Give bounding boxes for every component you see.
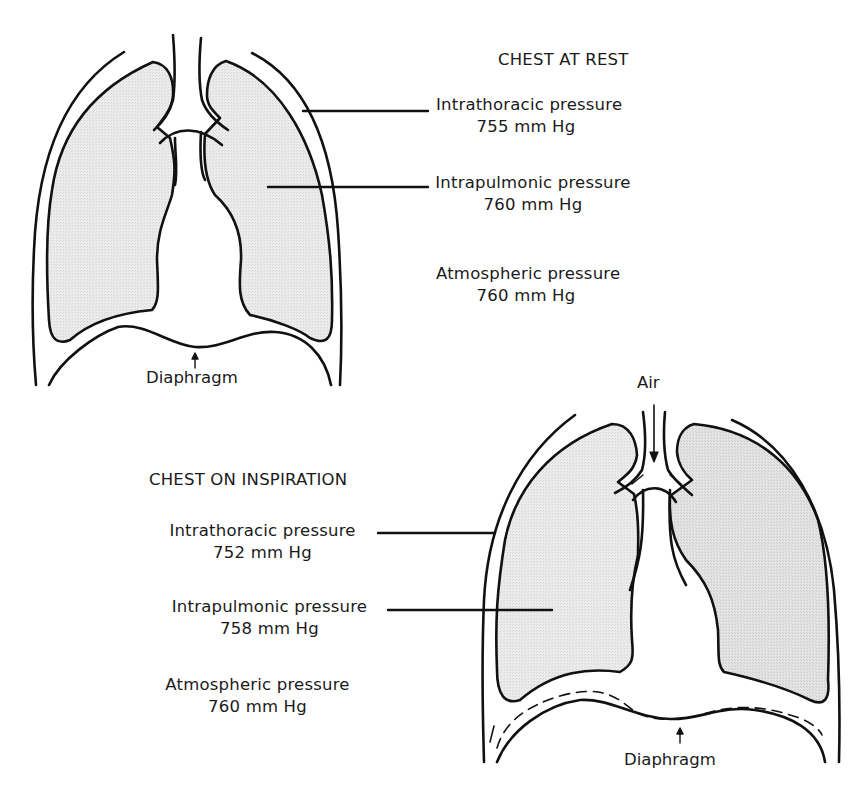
rest-intrapulmonic-name: Intrapulmonic pressure [433,172,633,194]
rest-intrapulmonic-value: 760 mm Hg [433,194,633,216]
insp-lung-left [496,424,638,701]
insp-label-intrapulmonic: Intrapulmonic pressure 758 mm Hg [152,596,387,640]
rest-label-intrathoracic: Intrathoracic pressure 755 mm Hg [436,94,616,138]
rest-intrathoracic-value: 755 mm Hg [436,116,616,138]
rest-label-atmospheric: Atmospheric pressure 760 mm Hg [436,263,616,307]
insp-intrathoracic-value: 752 mm Hg [150,542,375,564]
insp-intrathoracic-name: Intrathoracic pressure [150,520,375,542]
insp-lung-right-fill [670,424,829,702]
insp-atmospheric-value: 760 mm Hg [150,696,365,718]
rest-lung-left [47,62,174,342]
rest-intrathoracic-name: Intrathoracic pressure [436,94,616,116]
rest-atmospheric-value: 760 mm Hg [436,285,616,307]
respiration-diagram [0,0,866,788]
chest-on-inspiration-figure [378,405,839,762]
rest-diaphragm-label: Diaphragm [146,368,238,387]
rest-label-intrapulmonic: Intrapulmonic pressure 760 mm Hg [433,172,633,216]
insp-air-label: Air [637,373,660,392]
insp-label-intrathoracic: Intrathoracic pressure 752 mm Hg [150,520,375,564]
insp-label-atmospheric: Atmospheric pressure 760 mm Hg [150,674,365,718]
rest-title: CHEST AT REST [498,50,629,69]
insp-intrapulmonic-value: 758 mm Hg [152,618,387,640]
rest-atmospheric-name: Atmospheric pressure [436,263,616,285]
rest-mediastinum-left [175,138,176,185]
rest-lung-right [204,61,332,341]
chest-at-rest-figure [33,35,428,385]
insp-intrapulmonic-name: Intrapulmonic pressure [152,596,387,618]
insp-diaphragm-label: Diaphragm [624,750,716,769]
insp-atmospheric-name: Atmospheric pressure [150,674,365,696]
insp-title: CHEST ON INSPIRATION [149,470,347,489]
insp-bronchus-arrow-right-icon [670,475,681,484]
insp-diaphragm-rest-position [497,691,822,748]
